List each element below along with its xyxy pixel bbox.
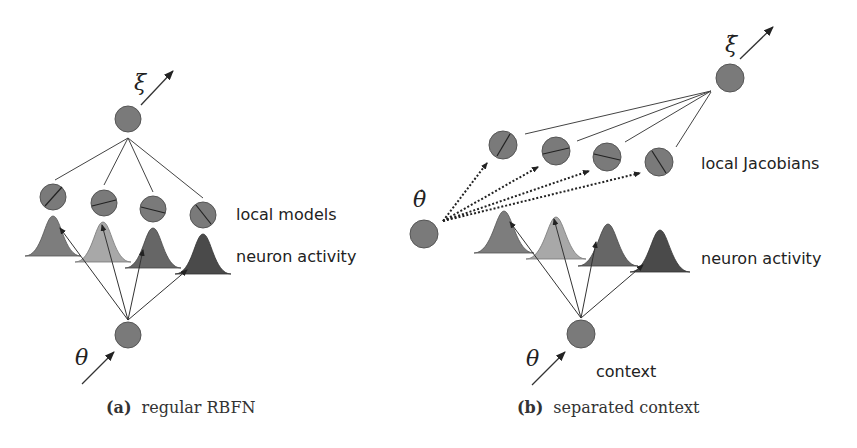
caption-a: (a) regular RBFN [106,398,255,417]
output-node [115,106,141,132]
velocity-symbol-theta-dot: θ̇ [413,187,426,212]
neuron-activity-gaussians [474,211,690,272]
figure-rbfn-comparison: ξ [0,0,857,448]
input-node [115,322,141,348]
local-jacobian-nodes [489,131,673,176]
caption-b: (b) separated context [517,398,700,417]
output-symbol-xi: ξ [134,70,148,95]
output-node [716,64,744,92]
panel-b-separated-context: ξ̇ θ̇ [410,27,821,417]
context-node [567,320,595,348]
label-context: context [596,362,656,381]
label-local-models: local models [236,205,337,224]
input-symbol-theta: θ [75,345,88,370]
label-neuron-activity-b: neuron activity [701,249,821,268]
context-symbol-theta: θ [526,346,539,371]
panel-a-regular-rbfn: ξ [25,70,356,417]
output-arrow-icon [740,27,773,59]
caption-a-tag: (a) [106,398,132,417]
local-model-nodes [40,184,216,228]
velocity-input-node [410,220,438,248]
context-connections [510,219,643,318]
label-local-jacobians: local Jacobians [701,154,819,173]
label-neuron-activity-a: neuron activity [236,247,356,266]
input-connections [60,225,187,320]
caption-b-tag: (b) [517,398,543,417]
caption-b-text: separated context [553,398,700,417]
output-symbol-xi-dot: ξ̇ [725,32,739,57]
caption-a-text: regular RBFN [142,398,256,417]
velocity-connections [443,163,640,221]
output-connections [55,138,203,198]
